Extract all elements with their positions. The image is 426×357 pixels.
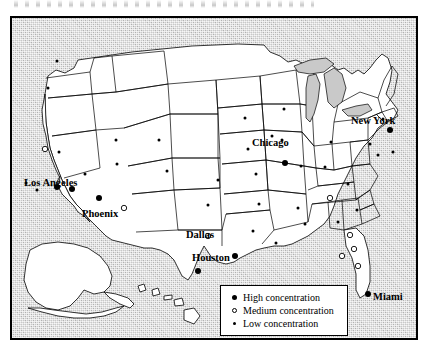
city-label-miami: Miami	[373, 292, 403, 303]
data-point-high	[365, 291, 371, 297]
data-point-medium	[42, 146, 47, 151]
data-point-low	[56, 60, 59, 63]
data-point-low	[392, 151, 395, 154]
us-concentration-map-figure: Los AngelesPhoenixDallasHoustonChicagoNe…	[0, 0, 426, 357]
data-point-low	[116, 163, 119, 166]
legend-row-high: High concentration	[228, 291, 341, 304]
data-point-low	[255, 173, 258, 176]
alaska-panhandle	[104, 292, 134, 308]
data-point-low	[58, 151, 61, 154]
data-point-low	[300, 165, 303, 168]
data-point-low	[47, 87, 50, 90]
data-point-low	[304, 223, 307, 226]
hawaii-big-island	[184, 308, 200, 324]
data-point-high	[232, 253, 238, 259]
data-point-low	[244, 117, 247, 120]
city-label-dallas: Dallas	[186, 230, 214, 241]
open-circle-icon	[228, 308, 240, 313]
filled-circle-icon	[228, 295, 240, 300]
legend-label-low: Low concentration	[243, 318, 318, 329]
data-point-low	[36, 189, 39, 192]
data-point-low	[337, 221, 340, 224]
data-point-low	[158, 139, 161, 142]
data-point-low	[356, 209, 359, 212]
city-label-phoenix: Phoenix	[82, 209, 118, 220]
city-label-los-angeles: Los Angeles	[24, 178, 77, 189]
data-point-medium	[339, 253, 344, 258]
data-point-low	[217, 179, 220, 182]
city-label-new-york: New York	[351, 116, 395, 127]
hawaii-kauai	[138, 284, 146, 292]
data-point-high	[387, 127, 393, 133]
data-point-low	[258, 203, 261, 206]
hawaii-oahu	[152, 288, 160, 296]
alaska-inset	[24, 242, 134, 318]
hawaii-inset	[138, 284, 200, 324]
data-point-low	[84, 173, 87, 176]
city-label-houston: Houston	[192, 253, 230, 264]
data-point-low	[369, 143, 372, 146]
data-point-medium	[355, 263, 360, 268]
data-point-medium	[351, 246, 356, 251]
data-point-low	[330, 141, 333, 144]
data-point-low	[115, 139, 118, 142]
data-point-low	[283, 108, 286, 111]
data-point-low	[377, 154, 380, 157]
hawaii-molokai	[164, 295, 172, 300]
data-point-low	[297, 207, 300, 210]
data-point-high	[96, 195, 102, 201]
aleutian-chain	[28, 306, 124, 318]
data-point-medium	[347, 232, 352, 237]
data-point-high	[195, 268, 201, 274]
alaska-outline	[24, 242, 112, 310]
data-point-low	[166, 170, 169, 173]
small-dot-icon	[228, 322, 240, 325]
map-frame: Los AngelesPhoenixDallasHoustonChicagoNe…	[10, 16, 418, 340]
data-point-low	[252, 230, 255, 233]
data-point-medium	[327, 195, 332, 200]
data-point-low	[275, 242, 278, 245]
city-label-chicago: Chicago	[252, 138, 289, 149]
legend-row-low: Low concentration	[228, 317, 341, 330]
data-point-low	[207, 204, 210, 207]
legend-row-medium: Medium concentration	[228, 304, 341, 317]
data-point-high	[282, 160, 288, 166]
legend-label-high: High concentration	[243, 292, 320, 303]
data-point-low	[347, 183, 350, 186]
cropped-caption-sliver	[14, 0, 314, 8]
map-legend: High concentration Medium concentration …	[220, 285, 348, 336]
data-point-low	[247, 148, 250, 151]
data-point-medium	[121, 205, 126, 210]
data-point-low	[324, 166, 327, 169]
legend-label-medium: Medium concentration	[243, 305, 334, 316]
hawaii-maui	[174, 298, 184, 306]
